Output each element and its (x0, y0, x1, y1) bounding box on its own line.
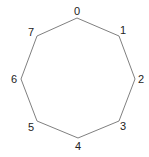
vertex-label-6: 6 (11, 73, 17, 85)
octagon-outline (21, 18, 135, 138)
vertex-label-5: 5 (28, 121, 34, 133)
vertex-label-4: 4 (75, 140, 81, 152)
vertex-label-3: 3 (120, 120, 126, 132)
octagon-diagram: 0 1 2 3 4 5 6 7 (0, 0, 149, 157)
vertex-label-0: 0 (74, 5, 80, 17)
vertex-label-7: 7 (28, 26, 34, 38)
vertex-labels: 0 1 2 3 4 5 6 7 (11, 5, 144, 152)
vertex-label-2: 2 (138, 73, 144, 85)
vertex-label-1: 1 (120, 24, 126, 36)
